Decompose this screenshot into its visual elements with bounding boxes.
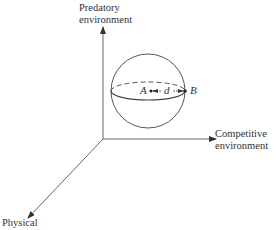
- equator-back: [111, 82, 185, 91]
- competitive-axis-label-1: Competitive: [215, 128, 267, 140]
- physical-axis-label: Physical: [2, 217, 38, 229]
- equator-front: [111, 91, 185, 100]
- point-b-dot: [183, 89, 187, 93]
- distance-label: d: [164, 84, 170, 96]
- point-a-dot: [149, 89, 152, 92]
- predatory-axis-label-1: Predatory: [79, 2, 120, 14]
- predatory-axis-label-2: environment: [79, 14, 132, 26]
- point-b-label: B: [190, 84, 197, 96]
- physical-axis: [28, 139, 103, 218]
- point-a-label: A: [140, 84, 147, 96]
- niche-space-diagram: [0, 0, 276, 230]
- competitive-axis-label-2: environment: [215, 140, 268, 152]
